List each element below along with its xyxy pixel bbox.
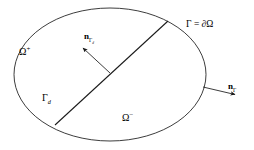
omega-plus-superscript: + xyxy=(26,45,30,52)
normal-gamma-d-subscript: Γd xyxy=(89,37,94,43)
label-omega-plus: Ω+ xyxy=(19,47,30,57)
boundary-partial-omega: ∂Ω xyxy=(202,19,214,29)
domain-diagram: Ω+ Ω− Γd nΓd Γ = ∂Ω nΓ xyxy=(0,0,254,150)
label-normal-gamma-d: nΓd xyxy=(84,32,94,43)
label-omega-minus: Ω− xyxy=(122,113,133,123)
interface-line-gamma-d xyxy=(55,21,168,125)
label-normal-gamma: nΓ xyxy=(228,82,236,91)
normal-gamma-subscript: Γ xyxy=(233,87,236,93)
interface-normal-arrow xyxy=(83,48,110,73)
label-gamma-d: Γd xyxy=(42,93,51,103)
gamma-d-subscript: d xyxy=(48,98,51,105)
figure-canvas xyxy=(0,0,254,150)
boundary-equals-sign: = xyxy=(192,19,202,29)
omega-minus-superscript: − xyxy=(129,111,133,118)
label-boundary-gamma: Γ = ∂Ω xyxy=(186,20,213,30)
